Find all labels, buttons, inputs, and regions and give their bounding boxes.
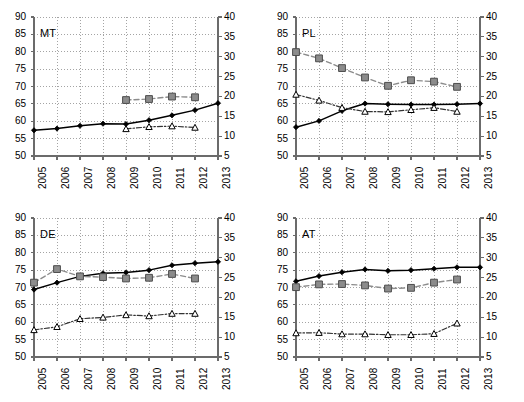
x-axis-tick-label: 2013 <box>222 167 232 189</box>
data-point-diamond <box>477 101 482 106</box>
y-axis-right-tick-label: 25 <box>486 72 508 82</box>
chart-grid: MT50556065707580859051015202530354020052… <box>0 0 524 402</box>
x-axis-tick-label: 2006 <box>61 368 71 390</box>
x-axis-tick-label: 2011 <box>176 368 186 390</box>
data-point-triangle <box>293 91 299 97</box>
data-point-square <box>385 285 392 292</box>
x-axis-tick-label: 2012 <box>461 167 471 189</box>
y-axis-left-tick-label: 65 <box>4 99 26 109</box>
data-point-square <box>77 273 84 280</box>
series-dashed-square-mt <box>123 93 199 103</box>
y-axis-right-tick-label: 15 <box>486 312 508 322</box>
y-axis-left-tick-label: 60 <box>4 317 26 327</box>
y-axis-right-tick-label: 5 <box>486 352 508 362</box>
y-axis-left-tick-label: 80 <box>4 248 26 258</box>
y-axis-left-tick-label: 85 <box>266 230 288 240</box>
data-point-square <box>362 282 369 289</box>
data-point-diamond <box>454 102 459 107</box>
y-axis-right-tick-label: 35 <box>486 233 508 243</box>
x-axis-tick-label: 2006 <box>323 368 333 390</box>
x-axis-tick-label: 2005 <box>38 167 48 189</box>
data-point-triangle <box>431 331 437 337</box>
chart-panel-mt: MT50556065707580859051015202530354020052… <box>0 0 262 201</box>
data-point-square <box>54 266 61 273</box>
data-point-diamond <box>123 270 128 275</box>
data-point-diamond <box>169 263 174 268</box>
x-axis-tick-label: 2007 <box>84 368 94 390</box>
y-axis-right-tick-label: 35 <box>224 32 246 42</box>
data-point-square <box>339 65 346 72</box>
data-point-diamond <box>385 102 390 107</box>
y-axis-left-tick-label: 90 <box>266 12 288 22</box>
data-point-square <box>192 275 199 282</box>
y-axis-right-tick-label: 40 <box>486 213 508 223</box>
y-axis-right-tick-label: 35 <box>486 32 508 42</box>
data-point-square <box>339 281 346 288</box>
data-point-square <box>123 275 130 282</box>
data-point-square <box>316 55 323 62</box>
data-point-diamond <box>316 273 321 278</box>
data-point-diamond <box>339 270 344 275</box>
x-axis-tick-label: 2008 <box>369 368 379 390</box>
data-point-diamond <box>385 268 390 273</box>
data-point-square <box>169 271 176 278</box>
x-axis-tick-label: 2009 <box>130 167 140 189</box>
x-axis-tick-label: 2011 <box>176 167 186 189</box>
data-point-square <box>146 96 153 103</box>
x-axis-tick-label: 2010 <box>153 368 163 390</box>
data-point-diamond <box>316 118 321 123</box>
data-point-diamond <box>192 108 197 113</box>
data-point-square <box>293 49 300 56</box>
data-point-square <box>293 284 300 291</box>
data-point-diamond <box>477 265 482 270</box>
y-axis-left-tick-label: 65 <box>266 300 288 310</box>
x-axis-tick-label: 2007 <box>84 167 94 189</box>
y-axis-right-tick-label: 40 <box>224 12 246 22</box>
y-axis-left-tick-label: 80 <box>266 47 288 57</box>
x-axis-tick-label: 2012 <box>199 368 209 390</box>
data-point-diamond <box>54 280 59 285</box>
chart-panel-at: AT50556065707580859051015202530354020052… <box>262 201 524 402</box>
y-axis-left-tick-label: 90 <box>4 12 26 22</box>
y-axis-left-tick-label: 55 <box>266 134 288 144</box>
x-axis-tick-label: 2009 <box>392 368 402 390</box>
y-axis-right-tick-label: 20 <box>486 91 508 101</box>
x-axis-tick-label: 2010 <box>415 368 425 390</box>
data-point-diamond <box>192 261 197 266</box>
y-axis-right-tick-label: 30 <box>224 52 246 62</box>
x-axis-tick-label: 2008 <box>107 368 117 390</box>
y-axis-right-tick-label: 30 <box>486 52 508 62</box>
y-axis-left-tick-label: 60 <box>266 116 288 126</box>
y-axis-left-tick-label: 65 <box>4 300 26 310</box>
data-point-diamond <box>215 259 220 264</box>
y-axis-left-tick-label: 70 <box>4 82 26 92</box>
data-point-square <box>100 274 107 281</box>
y-axis-right-tick-label: 5 <box>486 151 508 161</box>
x-axis-tick-label: 2010 <box>415 167 425 189</box>
y-axis-left-tick-label: 65 <box>266 99 288 109</box>
y-axis-left-tick-label: 70 <box>266 82 288 92</box>
data-point-square <box>316 281 323 288</box>
y-axis-right-tick-label: 10 <box>224 332 246 342</box>
y-axis-left-tick-label: 90 <box>4 213 26 223</box>
panel-title-pl: PL <box>302 27 316 39</box>
chart-panel-pl: PL50556065707580859051015202530354020052… <box>262 0 524 201</box>
data-point-diamond <box>31 128 36 133</box>
data-point-diamond <box>169 113 174 118</box>
x-axis-tick-label: 2006 <box>61 167 71 189</box>
y-axis-left-tick-label: 55 <box>266 335 288 345</box>
x-axis-tick-label: 2005 <box>38 368 48 390</box>
y-axis-right-tick-label: 30 <box>486 253 508 263</box>
x-axis-tick-label: 2009 <box>130 368 140 390</box>
data-point-square <box>408 284 415 291</box>
series-dashdot-triangle-at <box>293 320 460 337</box>
y-axis-left-tick-label: 70 <box>4 283 26 293</box>
data-point-diamond <box>146 118 151 123</box>
data-point-diamond <box>100 121 105 126</box>
y-axis-left-tick-label: 75 <box>4 265 26 275</box>
y-axis-right-tick-label: 35 <box>224 233 246 243</box>
data-point-square <box>431 78 438 85</box>
y-axis-right-tick-label: 40 <box>224 213 246 223</box>
x-axis-tick-label: 2005 <box>300 167 310 189</box>
panel-title-at: AT <box>302 228 316 240</box>
